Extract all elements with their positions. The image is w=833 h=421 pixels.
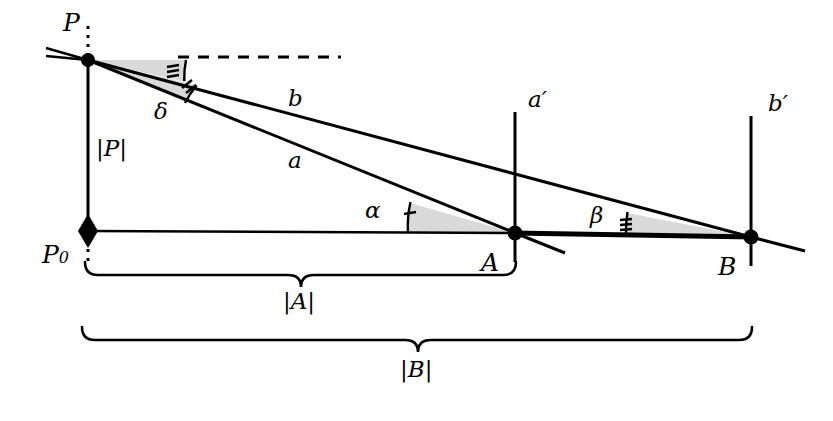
point-marker-P0: [78, 214, 98, 248]
label-P0: P0: [42, 240, 69, 269]
brace-abs-A: [85, 262, 516, 287]
arc-delta-outer: [184, 60, 186, 81]
point-marker-P: [81, 53, 95, 67]
label-b-prime: b′: [768, 90, 788, 116]
diagram-canvas: P P0 A B b a a′ b′ α β δ |P| |A| |B|: [0, 0, 833, 421]
label-angle-alpha: α: [365, 197, 381, 223]
label-abs-P: |P|: [96, 135, 127, 161]
point-marker-B: [744, 230, 759, 245]
label-line-a: a: [288, 147, 302, 173]
brace-abs-B: [82, 327, 752, 352]
label-abs-B: |B|: [400, 356, 432, 382]
label-line-b: b: [288, 85, 303, 111]
label-a-prime: a′: [528, 86, 547, 112]
label-P: P: [63, 8, 80, 37]
arc-tick-marks: [167, 65, 632, 230]
label-B: B: [718, 252, 736, 281]
label-abs-A: |A|: [283, 288, 315, 314]
label-A: A: [481, 248, 499, 277]
shade-alpha: [408, 203, 515, 233]
line-b-beyond-B: [751, 237, 805, 251]
label-angle-delta: δ: [154, 98, 168, 124]
label-angle-beta: β: [590, 202, 603, 228]
label-P0-sub: 0: [59, 248, 69, 267]
label-P0-main: P: [42, 240, 59, 269]
point-marker-A: [508, 226, 523, 241]
angle-arcs: [184, 60, 627, 237]
